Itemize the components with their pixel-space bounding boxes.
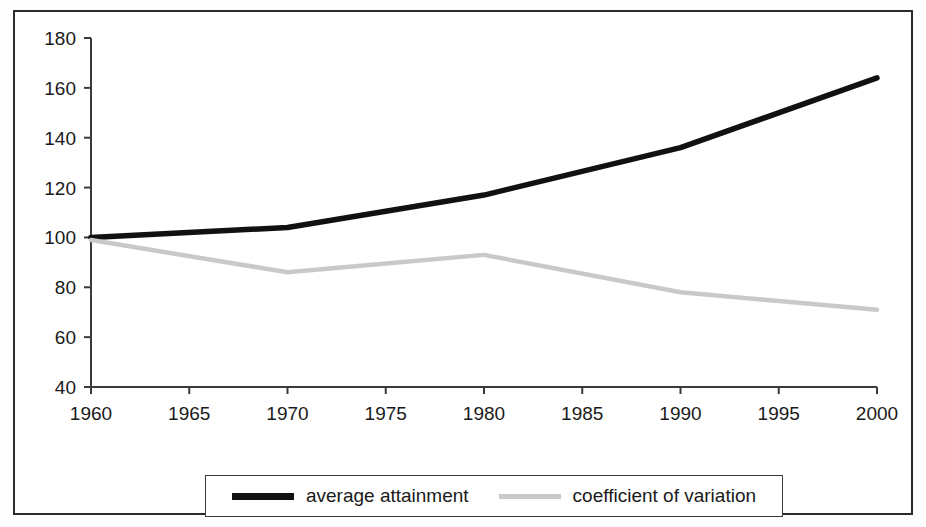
chart-figure: 180160140120100806040 196019651970197519… [0, 0, 926, 527]
y-axis-tick-label: 160 [44, 78, 76, 99]
x-axis-tick-label: 1975 [365, 403, 407, 424]
y-axis-tick-labels: 180160140120100806040 [44, 28, 76, 398]
y-axis-tick-label: 80 [55, 277, 76, 298]
legend-label: average attainment [306, 485, 469, 507]
y-axis-tick-label: 100 [44, 227, 76, 248]
x-axis-tick-label: 2000 [856, 403, 898, 424]
legend-swatch-icon [499, 494, 561, 499]
chart-legend: average attainment coefficient of variat… [205, 475, 783, 517]
x-axis-tick-label: 1965 [168, 403, 210, 424]
y-axis-tick-label: 60 [55, 327, 76, 348]
x-axis-tick-label: 1960 [70, 403, 112, 424]
legend-item-average-attainment: average attainment [232, 485, 469, 507]
x-axis-tick-label: 1985 [561, 403, 603, 424]
legend-item-coefficient-of-variation: coefficient of variation [499, 485, 756, 507]
series-line-average-attainment [91, 78, 877, 238]
x-axis-tick-label: 1980 [463, 403, 505, 424]
x-axis-tick-label: 1995 [758, 403, 800, 424]
y-axis-tick-label: 120 [44, 178, 76, 199]
y-axis-tick-label: 140 [44, 128, 76, 149]
x-axis-tick-labels: 196019651970197519801985199019952000 [70, 403, 898, 424]
y-axis-tick-label: 40 [55, 377, 76, 398]
x-axis-tick-label: 1970 [266, 403, 308, 424]
y-axis-tick-label: 180 [44, 28, 76, 49]
legend-swatch-icon [232, 493, 294, 500]
series-line-coefficient-of-variation [91, 240, 877, 310]
line-chart-plot: 180160140120100806040 196019651970197519… [15, 12, 911, 513]
y-axis-ticks [84, 38, 91, 387]
x-axis-ticks [91, 387, 877, 394]
legend-label: coefficient of variation [573, 485, 756, 507]
x-axis-tick-label: 1990 [659, 403, 701, 424]
chart-outer-frame: 180160140120100806040 196019651970197519… [13, 10, 913, 515]
